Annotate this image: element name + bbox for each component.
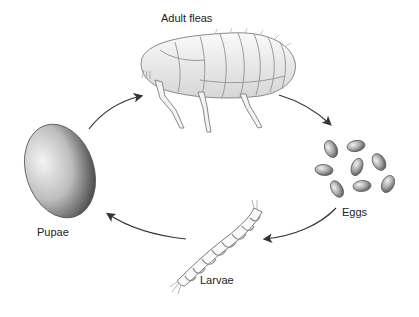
eggs-illustration bbox=[315, 138, 398, 199]
diagram-canvas bbox=[0, 0, 419, 317]
arrow-eggs-to-larvae bbox=[265, 208, 336, 239]
flea-life-cycle-diagram: Adult fleas Eggs Larvae Pupae bbox=[0, 0, 419, 317]
arrow-pupae-to-adult bbox=[89, 96, 141, 129]
arrow-adult-to-eggs bbox=[279, 95, 330, 124]
arrow-larvae-to-pupae bbox=[108, 214, 186, 239]
label-adult-fleas: Adult fleas bbox=[161, 12, 212, 24]
label-eggs: Eggs bbox=[342, 206, 367, 218]
pupa-illustration bbox=[13, 115, 107, 227]
adult-flea-illustration bbox=[141, 28, 295, 132]
cycle-arrows bbox=[89, 95, 336, 239]
label-pupae: Pupae bbox=[37, 226, 69, 238]
label-larvae: Larvae bbox=[200, 274, 234, 286]
